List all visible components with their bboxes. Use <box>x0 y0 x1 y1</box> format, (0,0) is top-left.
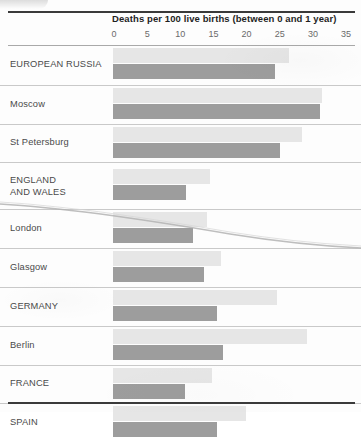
x-tick-30: 30 <box>308 29 318 39</box>
row-bars <box>0 288 361 326</box>
row-bars <box>0 125 361 163</box>
row-bars <box>0 163 361 209</box>
x-tick-15: 15 <box>208 29 218 39</box>
bar-dark <box>113 345 223 360</box>
bar-light <box>113 290 277 305</box>
bar-light <box>113 212 207 227</box>
bar-dark <box>113 306 217 321</box>
bar-light <box>113 127 302 142</box>
chart-row: London <box>0 209 361 248</box>
chart-row: FRANCE <box>0 365 361 404</box>
x-tick-10: 10 <box>175 29 185 39</box>
bar-dark <box>113 104 320 119</box>
row-bars <box>0 46 361 85</box>
chart-row: Glasgow <box>0 248 361 287</box>
chart-row: GERMANY <box>0 287 361 326</box>
bar-dark <box>113 64 275 79</box>
bar-dark <box>113 143 280 158</box>
chart-row: Moscow <box>0 85 361 124</box>
bar-light <box>113 329 307 344</box>
bar-light <box>113 169 210 184</box>
x-tick-0: 0 <box>111 29 116 39</box>
row-bars <box>0 404 361 441</box>
chart-row: SPAIN <box>0 403 361 441</box>
chart-row: Berlin <box>0 326 361 365</box>
row-bars <box>0 249 361 287</box>
bar-light <box>113 48 289 63</box>
chart-axis-title: Deaths per 100 live births (between 0 an… <box>112 13 337 24</box>
chart-row: ENGLAND AND WALES <box>0 162 361 209</box>
bar-light <box>113 406 246 421</box>
x-axis-tick-labels: 05101520253035 <box>0 29 361 43</box>
x-tick-25: 25 <box>275 29 285 39</box>
row-bars <box>0 366 361 404</box>
chart-rows: EUROPEAN RUSSIAMoscowSt PetersburgENGLAN… <box>0 46 361 441</box>
row-bars <box>0 210 361 248</box>
row-bars <box>0 86 361 124</box>
chart-row: St Petersburg <box>0 124 361 163</box>
x-tick-5: 5 <box>145 29 150 39</box>
x-tick-20: 20 <box>242 29 252 39</box>
x-tick-35: 35 <box>341 29 351 39</box>
bar-light <box>113 368 212 383</box>
bar-dark <box>113 228 193 243</box>
bottom-rule <box>8 402 355 404</box>
bar-dark <box>113 267 204 282</box>
bar-dark <box>113 422 217 437</box>
chart-row: EUROPEAN RUSSIA <box>0 46 361 85</box>
row-bars <box>0 327 361 365</box>
bar-light <box>113 88 322 103</box>
bar-light <box>113 251 221 266</box>
bar-dark <box>113 185 186 200</box>
bar-dark <box>113 384 185 399</box>
